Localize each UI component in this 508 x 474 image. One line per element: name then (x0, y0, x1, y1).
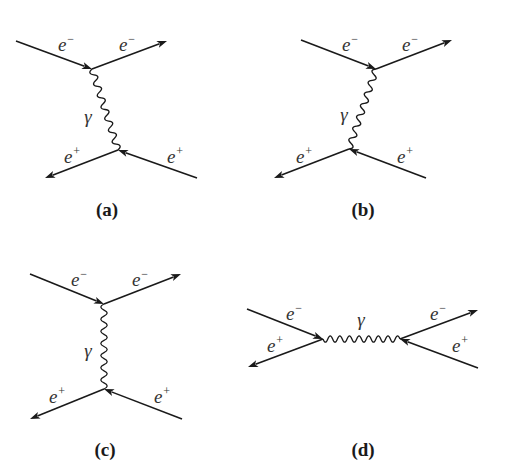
fermion-line (37, 389, 104, 416)
fermion-line (52, 150, 118, 175)
label-positron-in: e+ (154, 387, 170, 406)
caption-c: (c) (94, 439, 115, 461)
fermion-line (126, 153, 197, 178)
label-electron-in: e− (342, 35, 358, 54)
label-photon: γ (357, 310, 365, 329)
label-electron-out: e− (119, 35, 135, 54)
label-electron-out: e− (132, 270, 148, 289)
photon-propagator (323, 336, 400, 342)
label-electron-in: e− (71, 270, 87, 289)
photon-propagator (101, 304, 107, 389)
label-positron-out: e+ (64, 147, 80, 166)
fermion-line (281, 149, 349, 175)
label-positron-out: e+ (49, 387, 65, 406)
label-electron-in: e− (286, 304, 302, 323)
label-positron-in: e+ (167, 147, 183, 166)
diagram-lines (0, 0, 508, 474)
label-electron-out: e− (430, 304, 446, 323)
label-electron-out: e− (402, 35, 418, 54)
label-electron-in: e− (58, 35, 74, 54)
fermion-line (356, 152, 426, 178)
photon-propagator (349, 69, 376, 149)
label-photon: γ (84, 107, 92, 126)
label-positron-in: e+ (452, 336, 468, 355)
caption-a: (a) (96, 199, 118, 221)
label-positron-in: e+ (397, 147, 413, 166)
caption-d: (d) (351, 439, 374, 461)
label-photon: γ (84, 341, 92, 360)
fermion-line (111, 392, 182, 419)
feynman-figure: e− e− e+ e+ γ (a) e− e− e+ e+ γ (b) e− e… (0, 0, 508, 474)
fermion-line (301, 40, 369, 66)
label-positron-out: e+ (267, 336, 283, 355)
label-photon: γ (340, 105, 348, 124)
photon-propagator (90, 69, 120, 150)
fermion-line (16, 41, 84, 66)
caption-b: (b) (351, 199, 374, 221)
label-positron-out: e+ (296, 147, 312, 166)
fermion-line (255, 339, 323, 364)
